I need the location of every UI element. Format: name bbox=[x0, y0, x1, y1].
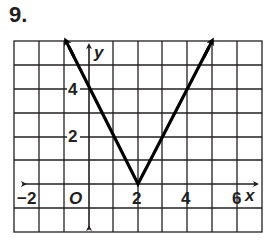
x-tick-4: 4 bbox=[181, 189, 191, 208]
x-tick-neg2: −2 bbox=[17, 189, 36, 208]
origin-label: O bbox=[69, 189, 82, 208]
x-axis-label: x bbox=[244, 186, 256, 205]
absolute-value-graph-line bbox=[69, 47, 209, 184]
x-tick-2: 2 bbox=[132, 189, 141, 208]
x-tick-6: 6 bbox=[232, 189, 241, 208]
y-axis-label: y bbox=[93, 43, 105, 62]
y-tick-2: 2 bbox=[68, 127, 77, 146]
coordinate-graph: y 4 2 −2 O 2 4 6 x bbox=[0, 0, 269, 240]
y-tick-4: 4 bbox=[68, 80, 78, 99]
right-arrow-icon bbox=[204, 41, 212, 57]
left-arrow-icon bbox=[66, 41, 74, 57]
